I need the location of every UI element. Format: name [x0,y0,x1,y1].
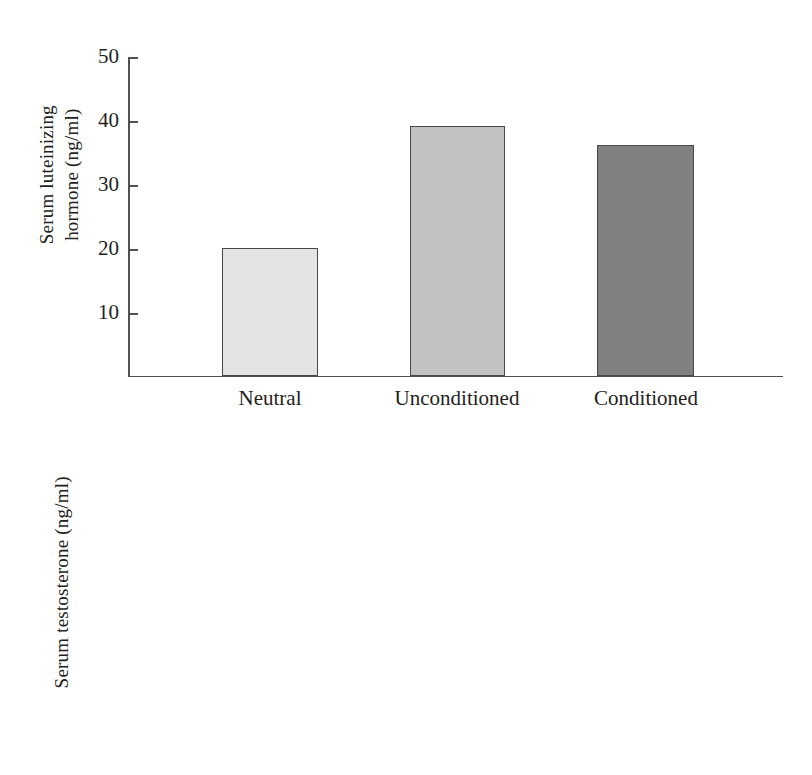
y-axis-label-bottom: Serum testosterone (ng/ml) [50,432,75,732]
y-tick-top-50: 50 [128,57,138,59]
bar-top-conditioned [597,145,694,375]
y-axis-label-top-line2: hormone (ng/ml) [61,109,82,241]
y-tick-label-top-30: 30 [98,172,119,197]
y-tick-top-10: 10 [128,313,138,315]
bar-top-neutral [222,248,318,376]
y-axis-label-top: Serum luteinizing hormone (ng/ml) [35,55,84,295]
y-tick-label-top-50: 50 [98,44,119,69]
y-axis-label-top-line1: Serum luteinizing [36,105,57,244]
y-tick-top-40: 40 [128,121,138,123]
panel-testosterone: Serum testosterone (ng/ml) 2.000 1.500 1… [0,400,812,775]
bar-top-unconditioned [410,126,505,376]
panel-luteinizing-hormone: Serum luteinizing hormone (ng/ml) 50 40 … [0,0,812,412]
y-tick-label-top-40: 40 [98,108,119,133]
x-axis-line-top [128,376,783,378]
y-tick-label-top-10: 10 [98,300,119,325]
y-tick-top-30: 30 [128,185,138,187]
y-tick-top-20: 20 [128,249,138,251]
plot-area-top: 50 40 30 20 10 Neutral Unconditioned Con… [128,57,783,377]
two-panel-bar-figure: Serum luteinizing hormone (ng/ml) 50 40 … [0,0,812,775]
y-axis-line-top [128,57,130,377]
y-tick-label-top-20: 20 [98,236,119,261]
